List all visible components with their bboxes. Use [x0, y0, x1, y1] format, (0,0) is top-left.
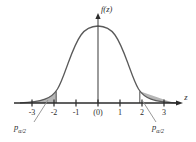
normal-distribution-figure: -3 -2 -1 (0) 1 2 3 f(z) z pα/2 pα/2	[0, 0, 196, 142]
tick-label-neg1: -1	[73, 108, 80, 117]
left-tail-label-subscript: α/2	[18, 128, 26, 134]
tick-label-zero: (0)	[93, 108, 103, 117]
tick-label-pos3: 3	[162, 108, 166, 117]
tick-label-pos1: 1	[118, 108, 122, 117]
tick-label-neg3: -3	[29, 108, 36, 117]
figure-canvas: -3 -2 -1 (0) 1 2 3 f(z) z pα/2 pα/2	[0, 0, 196, 142]
vertical-axis-arrowhead	[95, 13, 100, 19]
x-axis-label: z	[183, 92, 188, 102]
tick-label-neg2: -2	[51, 108, 58, 117]
left-tail-probability-label: pα/2	[13, 122, 26, 134]
right-tail-label-subscript: α/2	[156, 128, 164, 134]
z-axis-arrowhead	[176, 100, 183, 105]
right-tail-probability-label: pα/2	[151, 122, 164, 134]
tick-label-pos2: 2	[140, 108, 144, 117]
y-axis-label: f(z)	[101, 4, 113, 14]
